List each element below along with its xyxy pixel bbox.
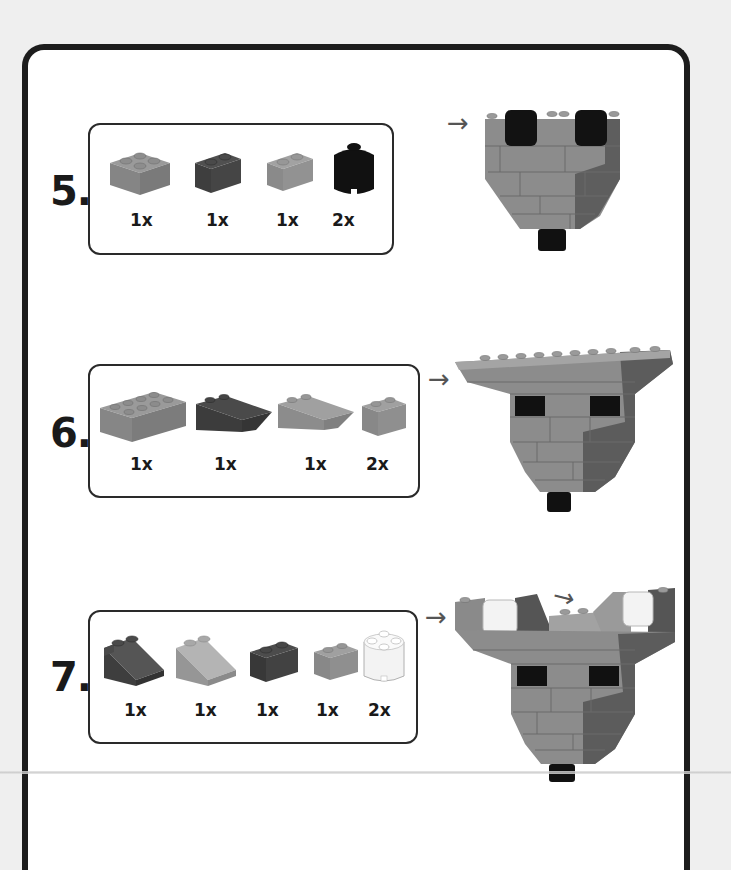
assembled-model-step-7 bbox=[453, 584, 678, 784]
brick-1x2-medium-icon bbox=[265, 147, 315, 195]
slope-2x2-dark-icon bbox=[102, 632, 168, 688]
quantity-label: 1x bbox=[124, 700, 147, 720]
brick-1x2-dark-icon bbox=[193, 147, 243, 197]
quantity-label: 1x bbox=[276, 210, 299, 230]
assembled-model-step-5 bbox=[480, 104, 630, 254]
step-number: 5. bbox=[50, 168, 91, 214]
quantity-label: 2x bbox=[368, 700, 391, 720]
round-brick-white-icon bbox=[360, 626, 408, 686]
quantity-label: 1x bbox=[194, 700, 217, 720]
quantity-label: 1x bbox=[130, 454, 153, 474]
arrow-icon: → bbox=[428, 366, 450, 392]
quantity-label: 2x bbox=[366, 454, 389, 474]
assembled-model-step-6 bbox=[455, 342, 680, 517]
brick-1x2-dark-icon bbox=[248, 636, 302, 686]
brick-1x2-medium-icon bbox=[360, 392, 410, 442]
quantity-label: 1x bbox=[206, 210, 229, 230]
quantity-label: 2x bbox=[332, 210, 355, 230]
brick-2x4-medium-icon bbox=[98, 386, 188, 446]
parts-callout: 1x 1x 1x 2x bbox=[88, 364, 420, 498]
quantity-label: 1x bbox=[256, 700, 279, 720]
quantity-label: 1x bbox=[316, 700, 339, 720]
quantity-label: 1x bbox=[214, 454, 237, 474]
inverted-slope-dark-icon bbox=[194, 390, 274, 440]
page-seam bbox=[0, 771, 731, 774]
brick-1x2-medium-icon bbox=[312, 638, 362, 686]
arrow-icon: → bbox=[425, 604, 447, 630]
step-number: 6. bbox=[50, 410, 91, 456]
brick-2x2-medium-icon bbox=[108, 145, 172, 197]
round-brick-black-icon bbox=[330, 139, 378, 199]
quantity-label: 1x bbox=[130, 210, 153, 230]
parts-callout: 1x 1x 1x 2x bbox=[88, 123, 394, 255]
quantity-label: 1x bbox=[304, 454, 327, 474]
inverted-slope-medium-icon bbox=[276, 390, 356, 440]
step-number: 7. bbox=[50, 654, 91, 700]
arrow-icon: → bbox=[447, 110, 469, 136]
slope-2x2-light-icon bbox=[174, 632, 240, 688]
parts-callout: 1x 1x 1x 1x 2x bbox=[88, 610, 418, 744]
